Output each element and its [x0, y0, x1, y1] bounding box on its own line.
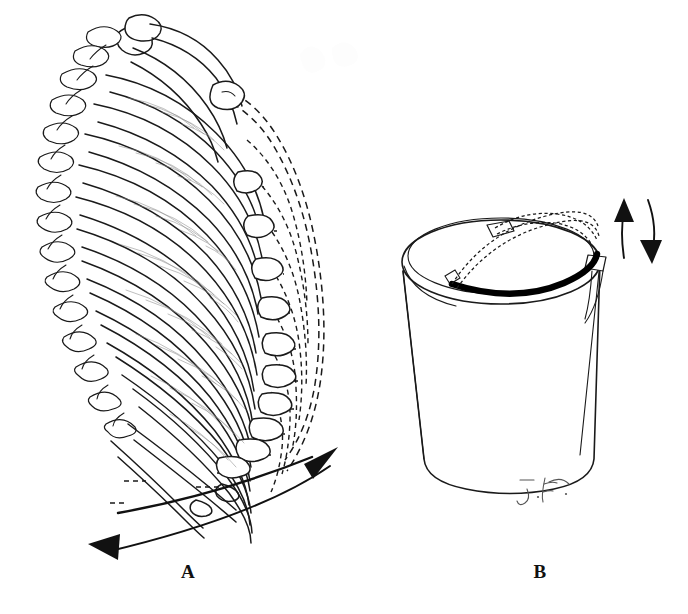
panel-label-a: A [168, 561, 208, 583]
panel-label-b: B [520, 561, 560, 583]
figure-root: A B [0, 0, 688, 614]
figure-illustration [0, 0, 688, 614]
